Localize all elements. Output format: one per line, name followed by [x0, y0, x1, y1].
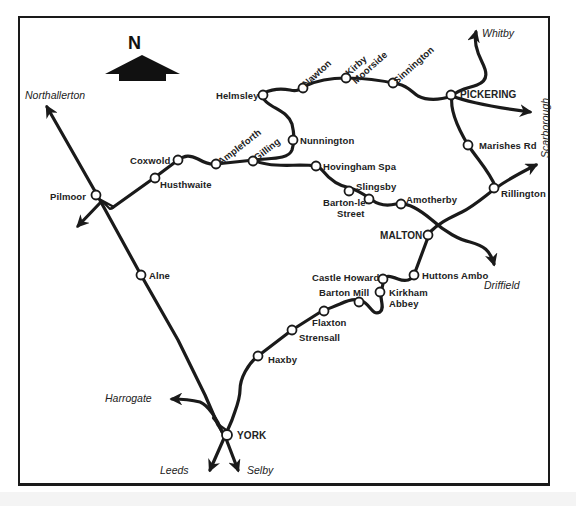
station-label-huttons-ambo: Huttons Ambo	[422, 271, 488, 281]
station-label-strensall: Strensall	[299, 333, 340, 343]
line-whitby	[452, 32, 486, 96]
station-label-flaxton: Flaxton	[312, 318, 346, 328]
station-haxby-marker	[254, 352, 263, 361]
station-hovingham-spa-marker	[312, 162, 321, 171]
station-slingsby-marker	[345, 187, 354, 196]
station-pickering-marker	[447, 91, 456, 100]
station-malton-marker	[424, 231, 433, 240]
station-label-castle-howard: Castle Howard	[312, 273, 379, 283]
station-label-helmsley: Helmsley	[216, 91, 259, 101]
station-label-malton: MALTON	[380, 231, 422, 241]
destination-harrogate: Harrogate	[105, 393, 152, 404]
station-york-marker	[222, 430, 232, 440]
destination-northallerton: Northallerton	[25, 90, 85, 101]
station-label-york: YORK	[237, 431, 266, 441]
north-arrow-icon	[105, 55, 180, 81]
station-label-coxwold: Coxwold	[130, 156, 170, 166]
destination-leeds: Leeds	[160, 465, 189, 476]
line-harrogate	[172, 399, 222, 432]
station-husthwaite-marker	[151, 174, 160, 183]
station-label-barton-le-street-2: Street	[337, 209, 365, 219]
station-label-nunnington: Nunnington	[300, 136, 354, 146]
station-flaxton-marker	[320, 307, 329, 316]
station-amotherby-marker	[397, 200, 406, 209]
scan-footer-strip	[0, 492, 576, 506]
station-label-barton-le-street-1: Barton-le-	[323, 198, 369, 208]
station-label-abbey: Abbey	[389, 299, 419, 309]
station-nunnington-marker	[289, 136, 298, 145]
station-label-rillington: Rillington	[501, 189, 546, 199]
railway-lines	[0, 0, 576, 506]
destination-scarborough: Scarborough	[540, 98, 551, 158]
station-label-haxby: Haxby	[268, 355, 297, 365]
station-pilmoor-marker	[92, 191, 101, 200]
station-marishes-rd-marker	[464, 141, 473, 150]
station-coxwold-marker	[174, 156, 183, 165]
station-label-barton-mill: Barton Mill	[319, 288, 369, 298]
station-label-slingsby: Slingsby	[356, 182, 396, 192]
station-huttons-ambo-marker	[410, 271, 419, 280]
destination-driffield: Driffield	[484, 280, 520, 291]
station-label-hovingham-spa: Hovingham Spa	[323, 162, 396, 172]
line-gilling-driffield	[254, 160, 494, 264]
station-castle-howard-marker	[379, 275, 388, 284]
station-label-pilmoor: Pilmoor	[50, 192, 86, 202]
station-label-husthwaite: Husthwaite	[160, 180, 212, 190]
compass-north-label: N	[128, 33, 141, 54]
station-kirkham-abbey-marker	[376, 288, 385, 297]
station-label-kirkham: Kirkham	[389, 288, 428, 298]
destination-selby: Selby	[247, 465, 273, 476]
station-helmsley-marker	[259, 91, 268, 100]
station-barton-mill-marker	[355, 298, 364, 307]
station-rillington-marker	[490, 184, 499, 193]
station-label-pickering: PICKERING	[460, 90, 516, 100]
station-label-amotherby: Amotherby	[406, 195, 457, 205]
railway-map: N Northallerton Whitby Scarborough Driff…	[0, 0, 576, 506]
station-label-marishes-rd: Marishes Rd	[479, 141, 537, 151]
line-pilmoor-sw	[78, 203, 100, 226]
station-label-alne: Alne	[149, 271, 170, 281]
station-strensall-marker	[288, 326, 297, 335]
station-alne-marker	[137, 271, 146, 280]
destination-whitby: Whitby	[482, 28, 514, 39]
